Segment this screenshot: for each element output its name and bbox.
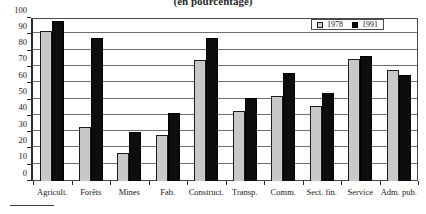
bar-group: [33, 18, 72, 181]
x-axis-tick-mark: [149, 181, 150, 185]
bar-1978: [233, 111, 245, 181]
legend-item-1978: 1978: [317, 21, 343, 29]
y-axis-tick-label: 70: [0, 54, 27, 63]
bar-1978: [79, 127, 91, 181]
x-axis-category-label: Forêts: [72, 187, 111, 197]
y-axis-tick-label: 90: [0, 22, 27, 31]
bar-1978: [387, 70, 399, 181]
y-axis-tick-label: 10: [0, 152, 27, 161]
bar-group: [264, 18, 303, 181]
x-axis-tick-mark: [72, 181, 73, 185]
y-axis-tick-label: 30: [0, 120, 27, 129]
x-axis-ticks: [33, 181, 418, 185]
x-axis-tick-mark: [187, 181, 188, 185]
bar-1991: [91, 38, 103, 181]
bar-1978: [117, 153, 129, 181]
x-axis-tick-mark: [303, 181, 304, 185]
y-axis-tick-label: 40: [0, 103, 27, 112]
bar-1991: [52, 21, 64, 181]
x-axis-tick-mark: [418, 181, 419, 185]
bar-group: [110, 18, 149, 181]
x-axis-category-label: Sect. fin.: [303, 187, 342, 197]
x-axis-category-label: Fab.: [149, 187, 188, 197]
legend-swatch-icon: [317, 22, 323, 28]
x-axis-tick-mark: [33, 181, 34, 185]
legend-label: 1991: [362, 21, 378, 29]
legend-label: 1978: [327, 21, 343, 29]
x-axis-category-label: Transp.: [226, 187, 265, 197]
y-axis-tick-label: 0: [0, 169, 27, 178]
bar-group: [380, 18, 419, 181]
bar-1991: [322, 93, 334, 181]
bar-1991: [399, 75, 411, 181]
x-axis-tick-mark: [341, 181, 342, 185]
bar-group: [149, 18, 188, 181]
bar-1991: [168, 113, 180, 181]
y-axis-tick-label: 80: [0, 38, 27, 47]
bar-group: [72, 18, 111, 181]
bar-1991: [283, 73, 295, 181]
y-axis-tick-label: 50: [0, 87, 27, 96]
bar-group: [226, 18, 265, 181]
bar-1978: [156, 135, 168, 181]
chart-title: (en pourcentage): [0, 0, 426, 7]
bar-group: [341, 18, 380, 181]
bar-1978: [194, 60, 206, 181]
x-axis-category-label: Construct.: [187, 187, 226, 197]
x-axis-tick-mark: [110, 181, 111, 185]
x-axis-category-label: Adm. pub.: [380, 187, 419, 197]
x-axis-tick-mark: [380, 181, 381, 185]
legend-swatch-icon: [352, 22, 358, 28]
y-axis-tick-label: 20: [0, 136, 27, 145]
bars-layer: [33, 18, 418, 181]
x-axis-category-label: Comm.: [264, 187, 303, 197]
y-axis-tick-label: 100: [0, 6, 27, 15]
y-axis-tick-label: 60: [0, 71, 27, 80]
bar-1978: [271, 96, 283, 181]
bar-1991: [360, 56, 372, 182]
bar-group: [303, 18, 342, 181]
bar-1991: [129, 132, 141, 181]
x-axis-tick-mark: [264, 181, 265, 185]
bar-1978: [40, 31, 52, 181]
bar-1991: [245, 98, 257, 181]
x-axis-category-label: Agricult.: [33, 187, 72, 197]
bar-1978: [310, 106, 322, 181]
bar-1991: [206, 38, 218, 181]
x-axis-labels: Agricult.ForêtsMinesFab.Construct.Transp…: [33, 187, 418, 197]
legend: 19781991: [311, 19, 384, 30]
x-axis-category-label: Service: [341, 187, 380, 197]
x-axis-category-label: Mines: [110, 187, 149, 197]
legend-item-1991: 1991: [352, 21, 378, 29]
bar-1978: [348, 59, 360, 181]
bar-group: [187, 18, 226, 181]
x-axis-tick-mark: [226, 181, 227, 185]
footnote-separator: [10, 205, 54, 206]
